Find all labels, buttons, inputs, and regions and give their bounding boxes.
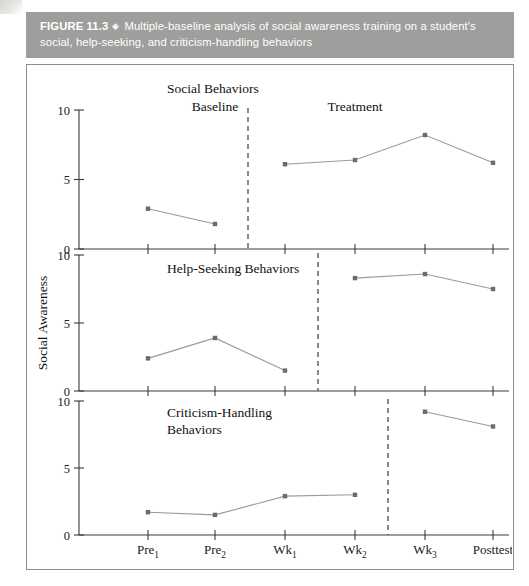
y-tick-label: 10 xyxy=(58,104,71,118)
data-point[interactable] xyxy=(213,222,217,226)
y-tick-label: 5 xyxy=(64,173,70,187)
x-tick-label: Pre1 xyxy=(137,542,159,560)
panel-title-line2: Behaviors xyxy=(167,422,222,437)
data-point[interactable] xyxy=(213,336,217,340)
panel-help-seeking-behaviors: 0510Help-Seeking Behaviors xyxy=(58,249,510,399)
figure-number: FIGURE 11.3 xyxy=(40,20,108,32)
series-line-treatment xyxy=(425,412,493,427)
data-point[interactable] xyxy=(283,368,287,372)
panel-social-behaviors: 0510Social BehaviorsBaselineTreatment xyxy=(58,81,510,257)
data-point[interactable] xyxy=(353,493,357,497)
y-tick-label: 5 xyxy=(64,317,70,331)
figure-caption-bar: FIGURE 11.3◆Multiple-baseline analysis o… xyxy=(26,12,514,58)
panel-criticism-handling-behaviors: 0510Criticism-HandlingBehaviors xyxy=(58,395,510,543)
data-point[interactable] xyxy=(283,162,287,166)
multiple-baseline-chart: 0510Social BehaviorsBaselineTreatment051… xyxy=(27,65,512,568)
panel-title: Criticism-Handling xyxy=(167,405,272,420)
series-line-baseline xyxy=(148,338,285,371)
x-tick-label: Wk1 xyxy=(273,542,297,560)
phase-label-treatment: Treatment xyxy=(328,99,383,114)
data-point[interactable] xyxy=(353,158,357,162)
series-line-treatment xyxy=(355,274,493,289)
data-point[interactable] xyxy=(146,510,150,514)
figure-container: FIGURE 11.3◆Multiple-baseline analysis o… xyxy=(14,12,514,570)
y-tick-label: 5 xyxy=(64,462,70,476)
plot-frame: 0510Social BehaviorsBaselineTreatment051… xyxy=(26,64,514,570)
x-tick-label: Posttest xyxy=(473,542,512,557)
data-point[interactable] xyxy=(353,276,357,280)
series-line-treatment xyxy=(285,135,493,164)
y-tick-label: 10 xyxy=(58,395,71,409)
phase-label-baseline: Baseline xyxy=(192,99,239,114)
data-point[interactable] xyxy=(423,410,427,414)
y-tick-label: 0 xyxy=(64,529,70,543)
y-axis-title: Social Awareness xyxy=(35,276,50,370)
data-point[interactable] xyxy=(146,356,150,360)
data-point[interactable] xyxy=(213,513,217,517)
y-tick-label: 10 xyxy=(58,249,71,263)
series-line-baseline xyxy=(148,209,215,224)
data-point[interactable] xyxy=(146,206,150,210)
data-point[interactable] xyxy=(423,272,427,276)
series-line-baseline xyxy=(148,495,355,515)
data-point[interactable] xyxy=(283,494,287,498)
diamond-bullet-icon: ◆ xyxy=(112,19,119,35)
data-point[interactable] xyxy=(491,161,495,165)
x-tick-label: Wk3 xyxy=(413,542,437,560)
x-tick-label: Wk2 xyxy=(343,542,367,560)
data-point[interactable] xyxy=(491,424,495,428)
panel-title: Social Behaviors xyxy=(167,81,259,96)
x-tick-label: Pre2 xyxy=(204,542,226,560)
data-point[interactable] xyxy=(491,287,495,291)
data-point[interactable] xyxy=(423,133,427,137)
panel-title: Help-Seeking Behaviors xyxy=(167,261,299,276)
